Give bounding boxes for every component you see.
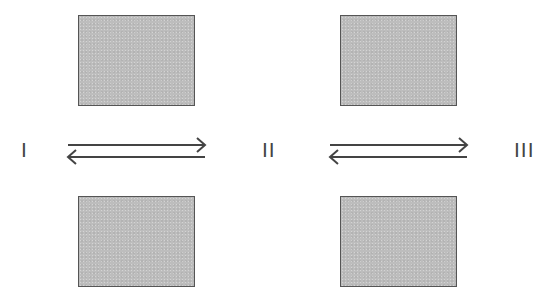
label-species-2: II [262,138,276,162]
box-bottom-left [78,196,195,287]
equilibrium-arrows-2-icon [322,135,477,165]
equilibrium-arrows-1-icon [60,135,215,165]
box-bottom-right [340,196,457,287]
box-top-right [340,15,457,106]
box-top-left [78,15,195,106]
label-species-1: I [21,138,28,162]
label-species-3: III [514,138,535,162]
